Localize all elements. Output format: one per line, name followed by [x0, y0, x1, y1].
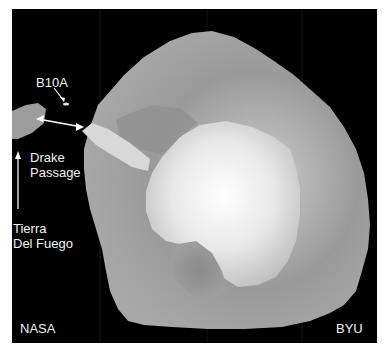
label-drake-passage: Drake Passage: [30, 150, 81, 180]
label-tierra-line2: Del Fuego: [13, 236, 73, 251]
iceberg-b10a: [63, 102, 69, 105]
label-b10a: B10A: [36, 75, 68, 90]
image-frame: B10A Drake Passage Tierra Del Fuego NASA…: [12, 9, 377, 343]
label-drake-line1: Drake: [30, 150, 81, 165]
credit-byu: BYU: [336, 321, 363, 336]
label-tierra-del-fuego: Tierra Del Fuego: [13, 221, 73, 251]
credit-nasa: NASA: [20, 321, 55, 336]
label-tierra-line1: Tierra: [13, 221, 73, 236]
label-drake-line2: Passage: [30, 165, 81, 180]
